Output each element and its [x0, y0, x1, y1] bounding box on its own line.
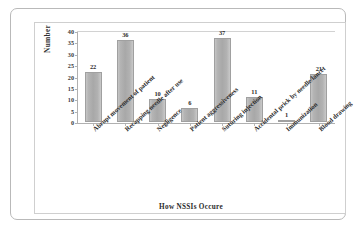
- y-axis-tick-mark: [75, 32, 77, 33]
- y-axis-tick-label: 25: [68, 63, 74, 69]
- y-axis-tick-label: 30: [68, 52, 74, 58]
- y-axis-tick-label: 35: [68, 40, 74, 46]
- chart-panel: Number 4035302520151050 22361063711121 A…: [34, 22, 346, 214]
- y-axis-tick-mark: [75, 100, 77, 101]
- y-axis-tick-mark: [75, 66, 77, 67]
- y-axis-tick-label: 15: [68, 86, 74, 92]
- bar-value-label: 36: [122, 32, 128, 38]
- y-axis-tick-label: 40: [68, 29, 74, 35]
- y-axis-tick-mark: [75, 123, 77, 124]
- y-axis-tick-mark: [75, 112, 77, 113]
- y-axis-line: [77, 32, 78, 124]
- y-axis-tick-label: 5: [71, 109, 74, 115]
- x-axis-title: How NSSIs Occure: [35, 203, 347, 211]
- y-axis-tick-label: 0: [71, 120, 74, 126]
- bar-rectangle[interactable]: [85, 72, 102, 122]
- y-axis-tick-label: 10: [68, 97, 74, 103]
- y-axis-tick-mark: [75, 89, 77, 90]
- y-axis-tick-label: 20: [68, 74, 74, 80]
- y-axis-title: Number: [43, 25, 52, 53]
- y-axis-tick-mark: [75, 43, 77, 44]
- y-axis-tick-mark: [75, 78, 77, 79]
- bar-value-label: 22: [90, 64, 96, 70]
- bar-item[interactable]: 22: [85, 64, 102, 122]
- y-axis-tick-mark: [75, 55, 77, 56]
- bar-value-label: 1: [285, 112, 288, 118]
- figure-outer-frame: Number 4035302520151050 22361063711121 A…: [10, 8, 346, 220]
- bar-value-label: 37: [219, 30, 225, 36]
- bar-value-label: 6: [188, 100, 191, 106]
